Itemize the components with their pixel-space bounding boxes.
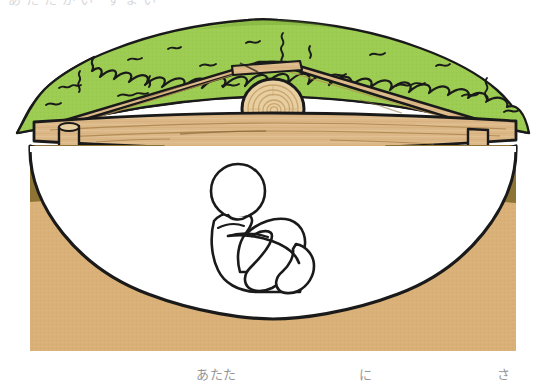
- caption-fragment-1: あたた: [196, 368, 237, 382]
- caption-row: あたた に さ: [0, 355, 547, 377]
- caption-fragment-2: に: [359, 368, 373, 382]
- clipped-top-text-label: あたたかい すまい: [8, 0, 161, 8]
- horizontal-beam: [34, 113, 516, 149]
- caption-fragment-3: さ: [497, 368, 511, 382]
- clipped-top-text: あたたかい すまい: [0, 0, 547, 9]
- person-head: [211, 164, 265, 218]
